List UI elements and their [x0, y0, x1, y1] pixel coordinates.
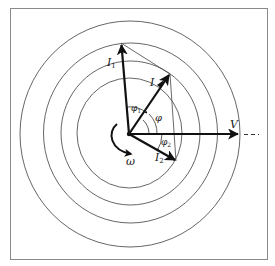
- label-I: I: [149, 76, 155, 89]
- label-omega: ω: [126, 155, 135, 168]
- label-phi: φ: [155, 112, 162, 123]
- phasor-diagram: I1 I φ1 φ V φ2 I2 ω: [0, 0, 275, 266]
- label-phi1: φ1: [131, 103, 141, 114]
- label-I1: I1: [106, 56, 116, 70]
- origin-point: [127, 132, 131, 136]
- vector-I1: [122, 45, 130, 134]
- line-I1-to-I: [121, 43, 170, 74]
- phasor-vectors: [122, 45, 239, 160]
- arc-phi-inner: [143, 120, 149, 134]
- label-V: V: [230, 118, 239, 131]
- label-phi2: φ2: [161, 137, 171, 148]
